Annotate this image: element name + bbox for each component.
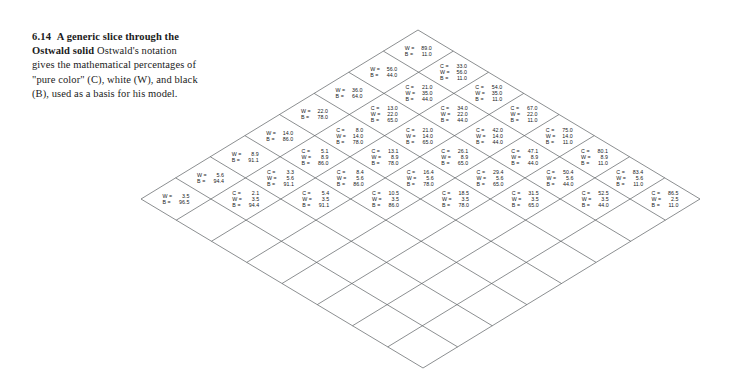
cell-label-line: B =86.0 — [266, 136, 293, 142]
cell-label-line: B =11.0 — [546, 139, 573, 145]
cell-label-r3-c2: C =13.1W =8.9B =78.0 — [371, 148, 398, 166]
cell-label-line: B =65.0 — [406, 139, 433, 145]
cell-label-line: B =91.1 — [267, 181, 294, 187]
cell-label-r0-c1: C =33.0W =56.0B =11.0 — [440, 63, 467, 81]
cell-label-line: B =91.1 — [302, 202, 329, 208]
grid-line-col-6 — [353, 157, 630, 326]
cell-label-line: B =44.0 — [405, 96, 432, 102]
cell-label-line: B =44.0 — [511, 160, 538, 166]
cell-label-line: B =44.0 — [546, 181, 573, 187]
grid-line-col-7 — [388, 178, 665, 347]
cell-label-r3-c4: C =18.5W =3.5B =78.0 — [442, 190, 469, 208]
cell-label-r5-c0: W =8.9B =91.1 — [232, 151, 259, 163]
cell-label-line: B =11.0 — [616, 181, 643, 187]
cell-label-line: B =94.4 — [197, 178, 224, 184]
cell-label-r1-c1: C =21.0W =35.0B =44.0 — [405, 84, 432, 102]
cell-label-r2-c5: C =31.5W =3.5B =65.0 — [512, 190, 539, 208]
cell-label-line: B =78.0 — [371, 160, 398, 166]
cell-label-r5-c1: C =3.3W =5.6B =91.1 — [267, 169, 294, 187]
cell-label-line: B =11.0 — [652, 202, 679, 208]
diagram-canvas: W =89.0B =11.0W =56.0B =44.0W =36.0B =64… — [0, 0, 736, 372]
cell-label-line: B =65.0 — [512, 202, 539, 208]
cell-label-line: B =94.4 — [232, 202, 259, 208]
figure-root: 6.14 A generic slice through the Ostwald… — [0, 0, 736, 372]
cell-label-r2-c3: C =26.1W =8.9B =65.0 — [441, 148, 468, 166]
grid-line-col-5 — [317, 136, 594, 305]
cell-label-line: B =78.0 — [407, 181, 434, 187]
cell-label-r2-c2: C =21.0W =14.0B =65.0 — [406, 127, 433, 145]
cell-label-r0-c7: C =86.5W =2.5B =11.0 — [652, 190, 679, 208]
cell-label-line: B =78.0 — [301, 114, 328, 120]
cell-label-r2-c1: C =13.0W =22.0B =65.0 — [371, 105, 398, 123]
cell-label-r4-c0: W =14.0B =86.0 — [266, 130, 293, 142]
grid-line-col-8 — [423, 199, 700, 368]
cell-label-r6-c1: C =2.1W =3.5B =94.4 — [232, 190, 259, 208]
cell-label-line: B =44.0 — [582, 202, 609, 208]
cell-label-line: B =44.0 — [476, 139, 503, 145]
cell-label-r4-c1: C =5.1W =8.9B =86.0 — [302, 148, 329, 166]
cell-label-line: B =44.0 — [441, 117, 468, 123]
cell-label-r1-c0: W =56.0B =44.0 — [370, 66, 397, 78]
cell-label-line: B =78.0 — [336, 139, 363, 145]
cell-label-line: B =65.0 — [477, 181, 504, 187]
cell-label-line: B =91.1 — [232, 157, 259, 163]
cell-label-r3-c0: W =22.0B =78.0 — [301, 108, 328, 120]
ostwald-slice-diagram: W =89.0B =11.0W =56.0B =44.0W =36.0B =64… — [0, 0, 736, 372]
cell-label-line: B =11.0 — [405, 51, 432, 57]
cell-label-r3-c3: C =16.4W =5.6B =78.0 — [407, 169, 434, 187]
cell-label-line: B =86.0 — [337, 181, 364, 187]
cell-label-group: W =89.0B =11.0W =56.0B =44.0W =36.0B =64… — [162, 45, 678, 208]
cell-label-r1-c3: C =42.0W =14.0B =44.0 — [476, 127, 503, 145]
cell-label-r1-c6: C =52.5W =3.5B =44.0 — [582, 190, 609, 208]
cell-label-line: B =11.0 — [440, 75, 467, 81]
cell-label-r0-c4: C =75.0W =14.0B =11.0 — [546, 127, 573, 145]
cell-label-line: B =96.5 — [162, 199, 189, 205]
cell-label-r0-c5: C =80.1W =8.9B =11.0 — [581, 148, 608, 166]
cell-label-r7-c0: W =3.5B =96.5 — [162, 193, 189, 205]
cell-label-line: B =11.0 — [475, 96, 502, 102]
cell-label-r0-c3: C =67.0W =22.0B =11.0 — [511, 105, 538, 123]
cell-label-r3-c1: C =8.0W =14.0B =78.0 — [336, 127, 363, 145]
cell-label-line: B =86.0 — [372, 202, 399, 208]
cell-label-r0-c2: C =54.0W =35.0B =11.0 — [475, 84, 502, 102]
cell-label-r4-c2: C =8.4W =5.6B =86.0 — [337, 169, 364, 187]
cell-label-r6-c0: W =5.6B =94.4 — [197, 172, 224, 184]
cell-label-line: B =78.0 — [442, 202, 469, 208]
cell-label-line: B =86.0 — [302, 160, 329, 166]
cell-label-r4-c3: C =10.5W =3.5B =86.0 — [372, 190, 399, 208]
cell-label-r0-c0: W =89.0B =11.0 — [405, 45, 432, 57]
cell-label-r0-c6: C =83.4W =5.6B =11.0 — [616, 169, 643, 187]
cell-label-line: B =65.0 — [371, 117, 398, 123]
cell-label-r2-c4: C =29.4W =5.6B =65.0 — [477, 169, 504, 187]
cell-label-line: B =11.0 — [511, 117, 538, 123]
cell-label-r2-c0: W =36.0B =64.0 — [336, 87, 363, 99]
cell-label-r1-c2: C =34.0W =22.0B =44.0 — [441, 105, 468, 123]
cell-label-line: B =44.0 — [370, 72, 397, 78]
lattice-grid — [141, 30, 700, 368]
cell-label-r1-c4: C =47.1W =8.9B =44.0 — [511, 148, 538, 166]
cell-label-line: B =11.0 — [581, 160, 608, 166]
cell-label-r1-c5: C =50.4W =5.6B =44.0 — [546, 169, 573, 187]
cell-label-line: B =65.0 — [441, 160, 468, 166]
cell-label-r5-c2: C =5.4W =3.5B =91.1 — [302, 190, 329, 208]
cell-label-line: B =64.0 — [336, 93, 363, 99]
